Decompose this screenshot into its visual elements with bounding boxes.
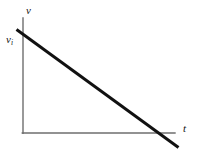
x-axis-label: t [183, 123, 186, 134]
initial-velocity-label-subscript: i [11, 38, 13, 47]
velocity-data-line [17, 30, 179, 148]
graph-canvas [0, 0, 205, 160]
velocity-time-graph: v vi t [0, 0, 205, 160]
initial-velocity-label: vi [6, 34, 13, 45]
y-axis-label: v [26, 5, 31, 16]
